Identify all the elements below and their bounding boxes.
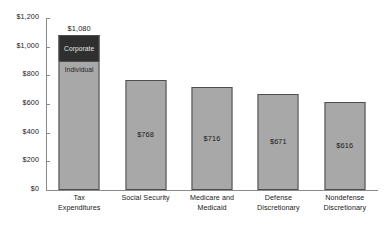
bar-value-label: $1,080 [68, 24, 91, 33]
category-label: Medicare andMedicaid [179, 193, 245, 212]
x-axis-line [46, 190, 378, 191]
category-label-line: Discretionary [245, 203, 311, 213]
bar-slot: $768 [112, 18, 178, 190]
bar-segment-label: Corporate [64, 45, 94, 52]
category-label: NondefenseDiscretionary [312, 193, 378, 212]
y-axis-tick-label: $0 [31, 184, 39, 193]
y-axis-tick-label: $1,200 [16, 12, 39, 21]
bar[interactable]: $716 [191, 87, 232, 190]
bar-segment-individual[interactable]: Individual [59, 61, 100, 190]
category-label-line: Nondefense [312, 193, 378, 203]
category-label-line: Discretionary [312, 203, 378, 213]
category-label: TaxExpenditures [46, 193, 112, 212]
category-label-line: Tax [46, 193, 112, 203]
y-axis-tick-label: $400 [23, 127, 39, 136]
bar-segment-label: Individual [65, 66, 94, 73]
bar-value-label: $671 [270, 137, 287, 146]
bar-chart: $0$200$400$600$800$1,000$1,200 Corporate… [0, 0, 384, 233]
bar-value-label: $768 [137, 130, 154, 139]
y-axis-tick-label: $800 [23, 69, 39, 78]
x-axis-categories: TaxExpendituresSocial SecurityMedicare a… [46, 193, 378, 231]
bar-slot: $716 [179, 18, 245, 190]
plot-area: CorporateIndividual$1,080$768$716$671$61… [46, 18, 378, 190]
category-label-line: Medicare and [179, 193, 245, 203]
bar-slot: $671 [245, 18, 311, 190]
category-label: DefenseDiscretionary [245, 193, 311, 212]
y-axis-tick-label: $200 [23, 155, 39, 164]
y-axis-tick-label: $1,000 [16, 41, 39, 50]
category-label: Social Security [112, 193, 178, 203]
bar[interactable]: $768 [125, 80, 166, 190]
bar-value-label: $616 [336, 141, 353, 150]
bar[interactable]: $671 [258, 94, 299, 190]
bar-slot: $616 [312, 18, 378, 190]
bar-slot: CorporateIndividual$1,080 [46, 18, 112, 190]
y-axis-tick-mark [46, 190, 50, 191]
category-label-line: Expenditures [46, 203, 112, 213]
category-label-line: Defense [245, 193, 311, 203]
bar[interactable]: CorporateIndividual [59, 35, 100, 190]
category-label-line: Social Security [112, 193, 178, 203]
bar-segment-corporate[interactable]: Corporate [59, 35, 100, 61]
bar[interactable]: $616 [324, 102, 365, 190]
y-axis-tick-label: $600 [23, 98, 39, 107]
category-label-line: Medicaid [179, 203, 245, 213]
bar-value-label: $716 [204, 134, 221, 143]
